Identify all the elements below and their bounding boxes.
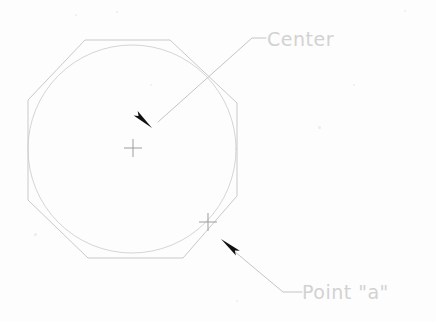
- center-crosshair: [124, 139, 142, 157]
- center-label: Center: [267, 28, 334, 50]
- technical-drawing: Center Point "a": [0, 0, 436, 322]
- drawing-canvas: Center Point "a": [0, 0, 436, 322]
- point-a-leader-line: [228, 246, 302, 292]
- center-arrowhead-icon: [134, 111, 154, 130]
- point-a-crosshair: [199, 213, 217, 231]
- point-a-label: Point "a": [302, 281, 389, 303]
